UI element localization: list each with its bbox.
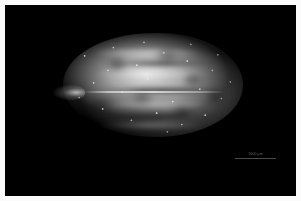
scale-bar-line	[235, 158, 276, 159]
micrograph-plate: 1000 µm	[5, 5, 296, 196]
scale-bar: 1000 µm	[233, 152, 278, 159]
figure-root: 1000 µm	[0, 0, 301, 201]
specimen-seed	[5, 5, 296, 196]
specimen-surface-granulation	[63, 33, 243, 137]
scale-bar-label: 1000 µm	[233, 152, 278, 157]
specimen-raphe-line	[83, 91, 225, 93]
